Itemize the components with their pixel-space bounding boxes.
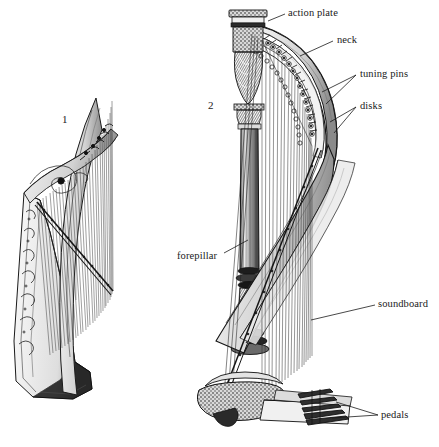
celtic-harp-figure [14, 98, 118, 399]
leader-action-plate [268, 14, 285, 21]
label-neck: neck [337, 35, 357, 46]
label-tuning-pins: tuning pins [360, 69, 408, 80]
label-action-plate: action plate [288, 8, 338, 19]
celtic-forepillar [60, 98, 102, 395]
celtic-soundbox [14, 193, 92, 399]
label-pedals: pedals [381, 410, 408, 421]
pedal-harp-figure [197, 10, 355, 426]
label-soundboard: soundboard [378, 299, 428, 310]
leader-tuning-pins-b [326, 75, 356, 104]
label-disks: disks [360, 101, 382, 112]
leader-disks-b [334, 107, 356, 133]
pedal-harp-capital [229, 10, 267, 129]
figure-number-1: 1 [62, 113, 68, 125]
leader-tuning-pins-a [322, 75, 356, 92]
pedal-harp-base [197, 372, 352, 426]
figure-number-2: 2 [208, 99, 214, 111]
leader-soundboard [311, 305, 375, 320]
illustration-canvas: 1 2 action plate neck tuning pins disks … [0, 0, 439, 447]
leader-neck [300, 41, 333, 56]
label-forepillar: forepillar [177, 251, 217, 262]
